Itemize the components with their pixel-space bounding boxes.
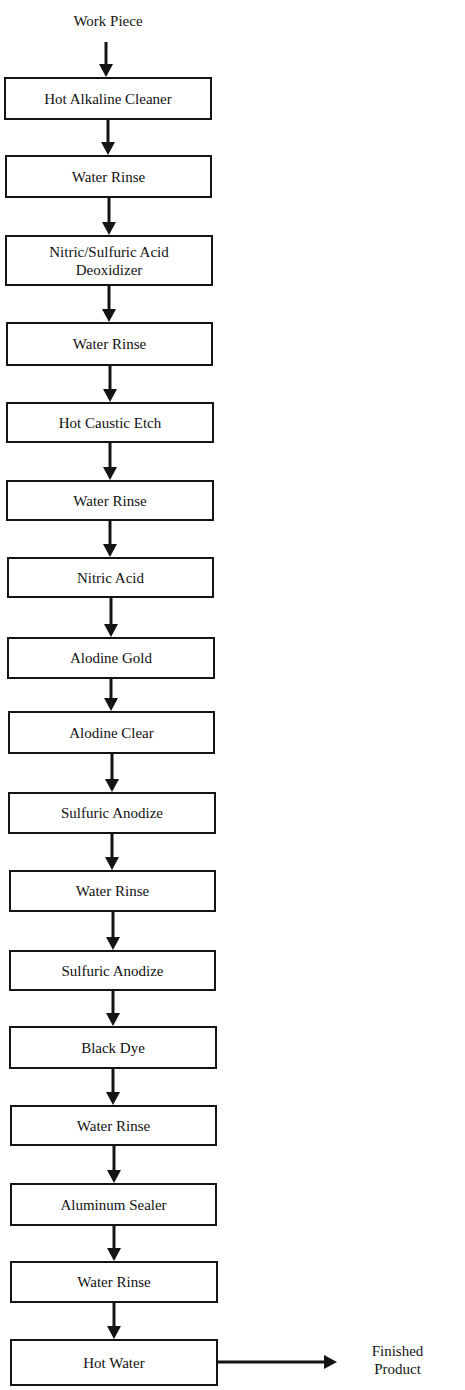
- process-step-box: Hot Water: [10, 1339, 218, 1386]
- process-step-box: Alodine Clear: [8, 711, 215, 754]
- process-step-label: Nitric/Sulfuric Acid: [49, 243, 169, 261]
- arrowhead-icon: [107, 1170, 121, 1183]
- process-step-label: Hot Alkaline Cleaner: [44, 90, 171, 108]
- arrowhead-icon: [107, 1326, 121, 1339]
- process-step-box: Water Rinse: [10, 1105, 217, 1146]
- process-step-label: Water Rinse: [72, 168, 145, 186]
- process-step-box: Nitric Acid: [7, 557, 214, 598]
- flowchart-connectors: [0, 0, 465, 1390]
- arrowhead-icon: [107, 1248, 121, 1261]
- arrowhead-icon: [103, 467, 117, 480]
- arrowhead-icon: [103, 389, 117, 402]
- process-step-box: Aluminum Sealer: [10, 1183, 217, 1226]
- process-step-label: Hot Caustic Etch: [59, 414, 161, 432]
- end-label-line2: Product: [350, 1360, 445, 1378]
- arrowhead-icon: [103, 544, 117, 557]
- process-step-label-line2: Deoxidizer: [76, 261, 143, 279]
- process-step-label: Sulfuric Anodize: [61, 804, 163, 822]
- process-step-label: Water Rinse: [73, 492, 146, 510]
- process-step-box: Hot Caustic Etch: [6, 402, 214, 443]
- process-step-box: Sulfuric Anodize: [8, 792, 216, 834]
- process-step-box: Water Rinse: [5, 155, 212, 198]
- arrowhead-icon: [324, 1355, 337, 1369]
- process-step-box: Water Rinse: [9, 870, 216, 912]
- process-step-box: Water Rinse: [6, 322, 213, 366]
- arrowhead-icon: [106, 1092, 120, 1105]
- process-step-label: Water Rinse: [77, 1117, 150, 1135]
- process-step-label: Sulfuric Anodize: [61, 962, 163, 980]
- arrowhead-icon: [104, 698, 118, 711]
- process-step-label: Water Rinse: [77, 1273, 150, 1291]
- process-step-box: Water Rinse: [10, 1261, 218, 1303]
- process-step-label: Nitric Acid: [77, 569, 144, 587]
- arrowhead-icon: [102, 222, 116, 235]
- arrowhead-icon: [106, 1013, 120, 1026]
- process-step-box: Water Rinse: [6, 480, 214, 521]
- process-step-box: Nitric/Sulfuric AcidDeoxidizer: [5, 235, 213, 286]
- end-label-line1: Finished: [350, 1342, 445, 1360]
- process-step-label: Hot Water: [83, 1354, 144, 1372]
- end-label-finished-product: Finished Product: [350, 1342, 445, 1378]
- process-step-label: Alodine Clear: [69, 724, 154, 742]
- process-step-label: Water Rinse: [76, 882, 149, 900]
- arrowhead-icon: [105, 779, 119, 792]
- process-step-box: Hot Alkaline Cleaner: [4, 77, 212, 120]
- arrowhead-icon: [104, 624, 118, 637]
- process-step-label: Black Dye: [81, 1039, 145, 1057]
- arrowhead-icon: [105, 857, 119, 870]
- arrowhead-icon: [99, 64, 113, 77]
- arrowhead-icon: [102, 309, 116, 322]
- start-label-work-piece: Work Piece: [56, 12, 160, 30]
- process-step-label: Alodine Gold: [70, 649, 152, 667]
- process-step-box: Alodine Gold: [7, 637, 215, 679]
- process-step-box: Sulfuric Anodize: [9, 950, 216, 991]
- process-step-box: Black Dye: [9, 1026, 217, 1069]
- arrowhead-icon: [106, 937, 120, 950]
- process-step-label: Water Rinse: [73, 335, 146, 353]
- process-step-label: Aluminum Sealer: [60, 1196, 166, 1214]
- arrowhead-icon: [101, 142, 115, 155]
